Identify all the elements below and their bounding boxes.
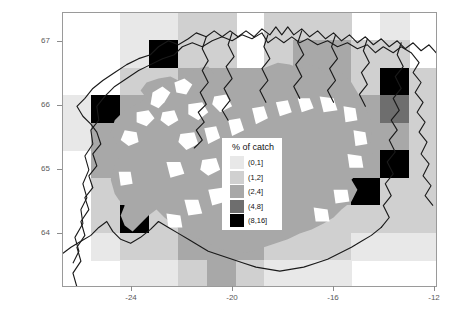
legend-label: (0,1] [248, 158, 263, 167]
legend-swatch [230, 185, 244, 198]
y-tick-mark [57, 41, 62, 42]
legend-label: (8,16] [248, 216, 267, 225]
x-tick-mark [333, 286, 334, 291]
legend-entry: (0,1] [230, 156, 282, 169]
x-tick-label: -16 [313, 293, 353, 302]
x-tick-mark [434, 286, 435, 291]
y-tick-label: 65 [28, 164, 50, 173]
y-tick-mark [57, 233, 62, 234]
legend-swatch [230, 214, 244, 227]
legend-entry: (8,16] [230, 214, 282, 227]
y-tick-label: 67 [28, 36, 50, 45]
y-tick-label: 66 [28, 100, 50, 109]
legend-swatch [230, 171, 244, 184]
legend-box: % of catch (0,1](1,2](2,4](4,8](8,16] [222, 138, 282, 230]
legend-entry: (2,4] [230, 185, 282, 198]
legend-entry: (1,2] [230, 171, 282, 184]
y-tick-label: 64 [28, 228, 50, 237]
x-tick-mark [232, 286, 233, 291]
x-tick-mark [131, 286, 132, 291]
legend-label: (4,8] [248, 202, 263, 211]
legend-title: % of catch [223, 142, 283, 152]
legend-swatch [230, 200, 244, 213]
legend-swatch [230, 156, 244, 169]
legend-entry: (4,8] [230, 200, 282, 213]
legend-label: (1,2] [248, 173, 263, 182]
figure-canvas: -24 -20 -16 -12 67 66 65 64 % of catch (… [0, 0, 452, 327]
x-tick-label: -20 [212, 293, 252, 302]
y-tick-mark [57, 169, 62, 170]
legend-label: (2,4] [248, 187, 263, 196]
y-tick-mark [57, 105, 62, 106]
x-tick-label: -24 [111, 293, 151, 302]
x-tick-label: -12 [414, 293, 452, 302]
